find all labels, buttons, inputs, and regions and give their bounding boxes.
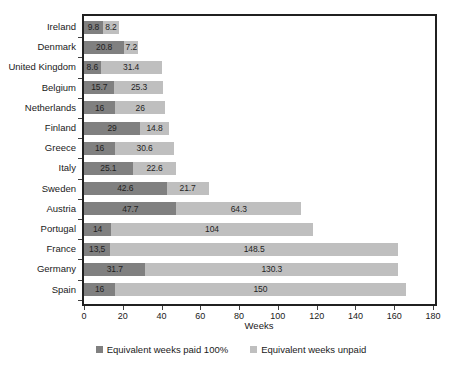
chart-figure: Ireland9.88.2Denmark20.87.2United Kingdo… bbox=[0, 0, 462, 374]
bar-value-paid: 31.7 bbox=[107, 265, 123, 274]
y-axis-tick bbox=[78, 158, 82, 159]
bar-value-paid: 47.7 bbox=[122, 205, 138, 214]
category-label: Portugal bbox=[0, 219, 76, 239]
bar-segment-unpaid[interactable]: 130.3 bbox=[145, 263, 398, 276]
bar-segment-paid[interactable]: 15.7 bbox=[84, 81, 114, 94]
bar-segment-paid[interactable]: 47.7 bbox=[84, 202, 176, 215]
stacked-bar[interactable]: 20.87.2 bbox=[84, 41, 138, 54]
category-label: Austria bbox=[0, 199, 76, 219]
x-axis-tick bbox=[278, 306, 279, 310]
bar-segment-paid[interactable]: 14 bbox=[84, 223, 111, 236]
bar-segment-unpaid[interactable]: 22.6 bbox=[133, 162, 177, 175]
x-axis-tick bbox=[162, 306, 163, 310]
stacked-bar[interactable]: 25.122.6 bbox=[84, 162, 176, 175]
bar-segment-paid[interactable]: 42.6 bbox=[84, 182, 167, 195]
stacked-bar[interactable]: 13,5148.5 bbox=[84, 243, 398, 256]
y-axis-tick bbox=[78, 219, 82, 220]
bar-row: Germany31.7130.3 bbox=[0, 259, 462, 279]
bar-segment-unpaid[interactable]: 8.2 bbox=[103, 21, 119, 34]
bar-segment-unpaid[interactable]: 31.4 bbox=[101, 61, 162, 74]
stacked-bar[interactable]: 2914.8 bbox=[84, 122, 169, 135]
bar-segment-paid[interactable]: 29 bbox=[84, 122, 140, 135]
bar-value-unpaid: 64.3 bbox=[231, 205, 247, 214]
y-axis-tick bbox=[78, 98, 82, 99]
bar-value-unpaid: 25.3 bbox=[131, 83, 147, 92]
stacked-bar[interactable]: 1630.6 bbox=[84, 142, 174, 155]
bar-segment-unpaid[interactable]: 148.5 bbox=[110, 243, 398, 256]
bar-segment-unpaid[interactable]: 21.7 bbox=[167, 182, 209, 195]
y-axis-tick bbox=[78, 179, 82, 180]
stacked-bar[interactable]: 15.725.3 bbox=[84, 81, 163, 94]
stacked-bar[interactable]: 8.631.4 bbox=[84, 61, 162, 74]
stacked-bar[interactable]: 1626 bbox=[84, 101, 165, 114]
bar-value-paid: 16 bbox=[95, 285, 104, 294]
bar-segment-unpaid[interactable]: 25.3 bbox=[114, 81, 163, 94]
bar-value-paid: 42.6 bbox=[117, 184, 133, 193]
bar-value-paid: 9.8 bbox=[88, 23, 100, 32]
stacked-bar[interactable]: 42.621.7 bbox=[84, 182, 209, 195]
category-label: Belgium bbox=[0, 78, 76, 98]
bar-value-paid: 25.1 bbox=[100, 164, 116, 173]
stacked-bar[interactable]: 31.7130.3 bbox=[84, 263, 398, 276]
bar-value-paid: 15.7 bbox=[91, 83, 107, 92]
category-label: France bbox=[0, 239, 76, 259]
bar-segment-paid[interactable]: 25.1 bbox=[84, 162, 133, 175]
x-axis-tick bbox=[394, 306, 395, 310]
category-label: United Kingdom bbox=[0, 57, 76, 77]
bar-value-unpaid: 104 bbox=[205, 225, 219, 234]
bar-segment-paid[interactable]: 16 bbox=[84, 101, 115, 114]
bar-row: Netherlands1626 bbox=[0, 98, 462, 118]
stacked-bar[interactable]: 14104 bbox=[84, 223, 313, 236]
bar-row: Ireland9.88.2 bbox=[0, 17, 462, 37]
bar-segment-paid[interactable]: 8.6 bbox=[84, 61, 101, 74]
bar-segment-paid[interactable]: 20.8 bbox=[84, 41, 124, 54]
category-label: Greece bbox=[0, 138, 76, 158]
legend-label: Equivalent weeks paid 100% bbox=[107, 344, 228, 355]
bar-row: Portugal14104 bbox=[0, 219, 462, 239]
category-label: Germany bbox=[0, 259, 76, 279]
bar-segment-unpaid[interactable]: 30.6 bbox=[115, 142, 174, 155]
bar-segment-unpaid[interactable]: 150 bbox=[115, 283, 406, 296]
category-label: Netherlands bbox=[0, 98, 76, 118]
bar-segment-paid[interactable]: 16 bbox=[84, 142, 115, 155]
bar-segment-unpaid[interactable]: 26 bbox=[115, 101, 165, 114]
bar-value-unpaid: 21.7 bbox=[180, 184, 196, 193]
y-axis-tick bbox=[78, 57, 82, 58]
category-label: Ireland bbox=[0, 17, 76, 37]
legend-item[interactable]: Equivalent weeks paid 100% bbox=[96, 344, 228, 355]
bar-segment-unpaid[interactable]: 104 bbox=[111, 223, 313, 236]
bar-row: Finland2914.8 bbox=[0, 118, 462, 138]
bar-value-unpaid: 31.4 bbox=[123, 63, 139, 72]
y-axis-tick bbox=[78, 239, 82, 240]
bar-value-unpaid: 148.5 bbox=[244, 245, 265, 254]
legend-swatch-unpaid bbox=[250, 346, 257, 353]
x-axis-tick bbox=[200, 306, 201, 310]
category-label: Finland bbox=[0, 118, 76, 138]
stacked-bar[interactable]: 47.764.3 bbox=[84, 202, 301, 215]
bar-value-unpaid: 7.2 bbox=[126, 43, 138, 52]
x-axis-tick bbox=[84, 306, 85, 310]
bar-value-unpaid: 14.8 bbox=[146, 124, 162, 133]
legend-item[interactable]: Equivalent weeks unpaid bbox=[250, 344, 366, 355]
bar-segment-unpaid[interactable]: 7.2 bbox=[124, 41, 138, 54]
bar-value-paid: 16 bbox=[95, 104, 104, 113]
y-axis-tick bbox=[78, 78, 82, 79]
y-axis-tick bbox=[78, 37, 82, 38]
bar-row: Greece1630.6 bbox=[0, 138, 462, 158]
bar-segment-unpaid[interactable]: 14.8 bbox=[140, 122, 169, 135]
legend-label: Equivalent weeks unpaid bbox=[261, 344, 366, 355]
bar-value-paid: 20.8 bbox=[96, 43, 112, 52]
stacked-bar[interactable]: 16150 bbox=[84, 283, 406, 296]
bar-row: France13,5148.5 bbox=[0, 239, 462, 259]
bar-segment-paid[interactable]: 9.8 bbox=[84, 21, 103, 34]
x-axis-title-label: Weeks bbox=[245, 320, 274, 331]
category-label: Denmark bbox=[0, 37, 76, 57]
category-label: Sweden bbox=[0, 179, 76, 199]
bar-value-unpaid: 26 bbox=[136, 104, 145, 113]
stacked-bar[interactable]: 9.88.2 bbox=[84, 21, 119, 34]
bar-segment-paid[interactable]: 31.7 bbox=[84, 263, 145, 276]
bar-segment-paid[interactable]: 16 bbox=[84, 283, 115, 296]
bar-segment-unpaid[interactable]: 64.3 bbox=[176, 202, 301, 215]
bar-segment-paid[interactable]: 13,5 bbox=[84, 243, 110, 256]
bar-value-paid: 16 bbox=[95, 144, 104, 153]
